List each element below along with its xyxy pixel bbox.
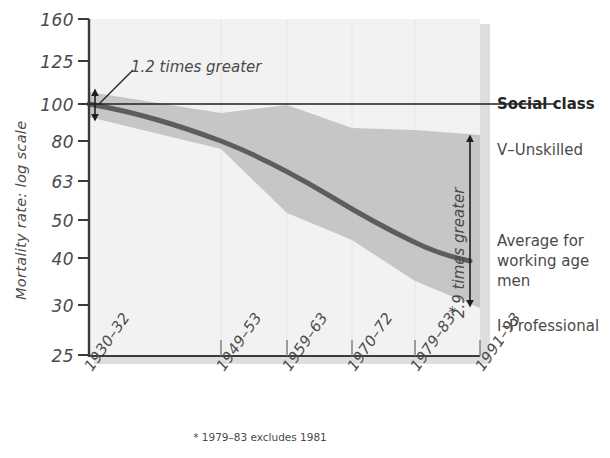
plot-shadow-right: [480, 24, 490, 360]
legend-item-average-line3: men: [497, 272, 530, 290]
annotation-1-2-times-greater: 1.2 times greater: [131, 58, 262, 76]
footnote: * 1979–83 excludes 1981: [193, 431, 327, 443]
y-tick-label-25: 25: [52, 346, 74, 366]
y-axis-title: Mortality rate: log scale: [13, 121, 29, 300]
y-tick-label-63: 63: [52, 172, 74, 192]
y-tick-label-160: 160: [40, 10, 74, 30]
legend-item-average-line2: working age: [497, 252, 589, 270]
y-tick-label-80: 80: [52, 132, 74, 152]
legend-item-average-line1: Average for: [497, 232, 585, 250]
y-tick-label-125: 125: [40, 52, 74, 72]
legend-item-i-professional: I–Professional: [497, 317, 599, 335]
y-tick-label-100: 100: [40, 95, 74, 115]
y-tick-label-40: 40: [52, 249, 74, 269]
legend-heading-social-class: Social class: [497, 95, 595, 113]
annotation-2-9-times-greater: 2.9 times greater: [450, 187, 468, 318]
y-tick-label-50: 50: [52, 211, 74, 231]
mortality-social-class-chart: 160 125 100 80 63 50 40 30 25 Mortality …: [0, 0, 610, 458]
chart-root: 160 125 100 80 63 50 40 30 25 Mortality …: [0, 0, 610, 458]
legend-item-v-unskilled: V–Unskilled: [497, 141, 583, 159]
y-tick-label-30: 30: [52, 296, 74, 316]
